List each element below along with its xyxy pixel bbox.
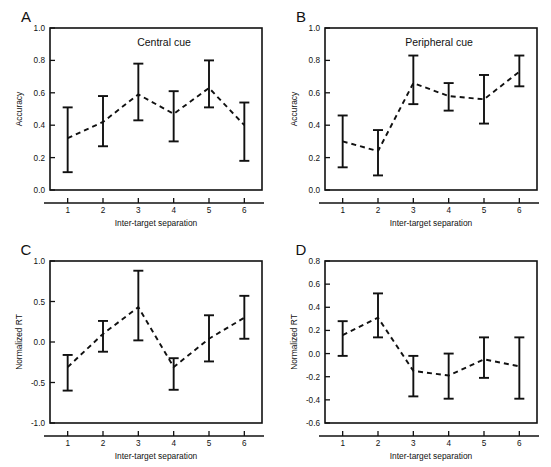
chart-panel-b: BPeripheral cue0.00.20.40.60.81.0123456I… [275,0,550,233]
plot-frame [325,261,537,423]
x-tick-label: 3 [136,439,141,448]
x-tick-label: 5 [207,206,212,215]
x-tick-label: 3 [411,439,416,448]
x-tick-label: 3 [411,206,416,215]
y-tick-label: 1.0 [309,24,321,33]
x-tick-label: 5 [207,439,212,448]
x-axis-title: Inter-target separation [390,218,473,228]
x-axis-title: Inter-target separation [115,451,198,461]
panel-b-svg: BPeripheral cue0.00.20.40.60.81.0123456I… [275,0,550,233]
plot-frame [50,28,262,190]
y-tick-label: 1.0 [34,257,46,266]
x-tick-label: 5 [482,439,487,448]
x-tick-label: 6 [242,439,247,448]
panel-letter-a: A [21,8,31,25]
chart-panel-a: ACentral cue0.00.20.40.60.81.0123456Inte… [0,0,275,233]
x-tick-label: 6 [242,206,247,215]
y-tick-label: 0.0 [34,186,46,195]
x-tick-label: 1 [340,206,345,215]
y-tick-label: -0.5 [31,379,46,388]
y-tick-label: 0.8 [309,257,321,266]
y-tick-label: -0.4 [306,396,321,405]
y-tick-label: 1.0 [34,24,46,33]
x-tick-label: 1 [340,439,345,448]
y-tick-label: 0.2 [34,154,46,163]
y-tick-label: 0.8 [34,56,46,65]
x-tick-label: 3 [136,206,141,215]
panel-letter-c: C [21,241,32,258]
y-tick-label: 0.2 [309,326,321,335]
x-axis-title: Inter-target separation [115,218,198,228]
x-tick-label: 4 [446,206,451,215]
y-tick-label: 0.5 [34,298,46,307]
x-tick-label: 4 [446,439,451,448]
y-tick-label: -1.0 [31,419,46,428]
x-tick-label: 5 [482,206,487,215]
x-tick-label: 6 [517,439,522,448]
y-tick-label: 0.4 [309,303,321,312]
y-tick-label: 0.6 [309,89,321,98]
chart-panel-c: C-1.0-0.50.00.51.0123456Inter-target sep… [0,233,275,466]
y-axis-title: Normalized RT [14,314,24,370]
panel-letter-b: B [296,8,306,25]
x-tick-label: 2 [101,206,106,215]
x-axis-title: Inter-target separation [390,451,473,461]
figure-panels-container: ACentral cue0.00.20.40.60.81.0123456Inte… [0,0,551,467]
y-tick-label: 0.2 [309,154,321,163]
plot-title: Peripheral cue [405,36,473,48]
y-tick-label: 0.8 [309,56,321,65]
panel-d-svg: D-0.6-0.4-0.20.00.20.40.60.8123456Inter-… [275,233,550,466]
x-tick-label: 2 [101,439,106,448]
panel-c-svg: C-1.0-0.50.00.51.0123456Inter-target sep… [0,233,275,466]
y-axis-title: Normalized RT [289,314,299,370]
y-tick-label: 0.0 [309,186,321,195]
x-tick-label: 4 [171,439,176,448]
x-tick-label: 2 [376,206,381,215]
y-axis-title: Accuracy [289,91,299,126]
plot-frame [50,261,262,423]
y-tick-label: -0.2 [306,373,321,382]
x-tick-label: 1 [65,439,70,448]
x-tick-label: 1 [65,206,70,215]
y-axis-title: Accuracy [14,91,24,126]
x-tick-label: 2 [376,439,381,448]
y-tick-label: 0.0 [309,350,321,359]
plot-title: Central cue [137,36,191,48]
y-tick-label: -0.6 [306,419,321,428]
plot-frame [325,28,537,190]
y-tick-label: 0.6 [34,89,46,98]
y-tick-label: 0.6 [309,280,321,289]
panel-a-svg: ACentral cue0.00.20.40.60.81.0123456Inte… [0,0,275,233]
panel-letter-d: D [296,241,307,258]
y-tick-label: 0.4 [34,121,46,130]
y-tick-label: 0.4 [309,121,321,130]
x-tick-label: 6 [517,206,522,215]
chart-panel-d: D-0.6-0.4-0.20.00.20.40.60.8123456Inter-… [275,233,550,466]
x-tick-label: 4 [171,206,176,215]
y-tick-label: 0.0 [34,338,46,347]
